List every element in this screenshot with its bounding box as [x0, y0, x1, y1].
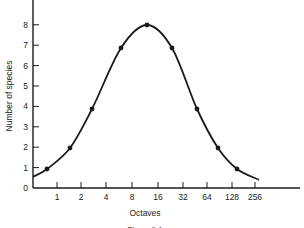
y-tick-label: 3 [23, 122, 28, 132]
data-point [145, 23, 150, 28]
y-tick-label: 2 [23, 142, 28, 152]
y-tick-label: 4 [23, 101, 28, 111]
x-tick-label: 128 [225, 192, 239, 202]
x-tick-label: 4 [104, 192, 109, 202]
x-tick-label: 64 [202, 192, 212, 202]
x-tick-label: 256 [248, 192, 262, 202]
data-points [45, 23, 240, 172]
x-tick-label: 2 [79, 192, 84, 202]
data-point [195, 107, 200, 112]
figure-caption: Figure 3.1 [128, 225, 163, 228]
data-point [235, 167, 240, 172]
x-tick-label: 16 [153, 192, 163, 202]
data-point [119, 46, 124, 51]
x-tick-label: 1 [55, 192, 60, 202]
y-tick-label: 0 [23, 183, 28, 193]
data-point [90, 107, 95, 112]
y-ticks: 012345678 [23, 20, 39, 193]
y-tick-label: 6 [23, 61, 28, 71]
species-distribution-curve [33, 25, 259, 180]
data-point [216, 146, 221, 151]
x-axis-title: Octaves [129, 208, 160, 218]
x-tick-label: 32 [178, 192, 188, 202]
bell-curve-chart: 012345678 1248163264128256 Number of spe… [0, 0, 304, 228]
y-tick-label: 7 [23, 40, 28, 50]
y-tick-label: 8 [23, 20, 28, 30]
data-point [170, 46, 175, 51]
y-axis-title: Number of species [4, 61, 14, 132]
y-tick-label: 1 [23, 163, 28, 173]
x-tick-label: 8 [130, 192, 135, 202]
y-tick-label: 5 [23, 81, 28, 91]
data-point [68, 146, 73, 151]
x-ticks: 1248163264128256 [55, 182, 263, 202]
data-point [45, 167, 50, 172]
